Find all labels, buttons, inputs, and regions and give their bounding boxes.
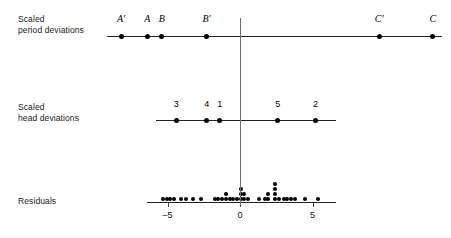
point-label: 4 <box>204 99 209 109</box>
period-axis-line <box>107 36 442 37</box>
data-point <box>277 197 281 201</box>
data-point <box>199 197 203 201</box>
data-point <box>273 187 277 191</box>
data-point <box>172 197 176 201</box>
axis-tick-label: –5 <box>162 210 172 220</box>
data-point <box>159 34 164 39</box>
axis-tick <box>313 203 314 207</box>
point-label: C′ <box>375 13 384 24</box>
data-point <box>217 118 222 123</box>
data-point <box>179 197 183 201</box>
data-point <box>266 197 270 201</box>
axis-tick <box>168 203 169 207</box>
data-point <box>257 197 261 201</box>
data-point <box>174 118 179 123</box>
head-row-label-line1: Scaled <box>18 102 45 113</box>
point-label: C <box>430 13 437 24</box>
data-point <box>273 192 277 196</box>
data-point <box>266 192 270 196</box>
axis-tick-label: 0 <box>237 210 242 220</box>
head-axis-line <box>156 120 336 121</box>
data-point <box>275 118 280 123</box>
data-point <box>119 34 124 39</box>
data-point <box>191 197 195 201</box>
data-point <box>313 118 318 123</box>
data-point <box>303 197 307 201</box>
zero-reference-line <box>240 18 241 205</box>
data-point <box>273 182 277 186</box>
data-point <box>224 192 228 196</box>
point-label: B <box>159 13 165 24</box>
data-point <box>184 197 188 201</box>
residuals-row-label: Residuals <box>18 196 56 207</box>
data-point <box>316 197 320 201</box>
point-label: A <box>144 13 150 24</box>
data-point <box>204 118 209 123</box>
data-point <box>430 34 435 39</box>
data-point <box>377 34 382 39</box>
point-label: 5 <box>275 99 280 109</box>
data-point <box>246 197 250 201</box>
data-point <box>224 197 228 201</box>
residuals-axis-line <box>147 202 336 203</box>
head-row-label-line2: head deviations <box>18 113 79 124</box>
point-label: A′ <box>117 13 125 24</box>
data-point <box>242 192 246 196</box>
scaled-deviations-figure: Scaled period deviations A′ABB′C′C Scale… <box>0 0 451 238</box>
point-label: 1 <box>217 99 222 109</box>
point-label: B′ <box>202 13 210 24</box>
point-label: 3 <box>174 99 179 109</box>
period-row-label-line2: period deviations <box>18 25 84 36</box>
period-row-label-line1: Scaled <box>18 14 45 25</box>
point-label: 2 <box>313 99 318 109</box>
data-point <box>293 197 297 201</box>
axis-tick-label: 5 <box>310 210 315 220</box>
data-point <box>145 34 150 39</box>
data-point <box>204 34 209 39</box>
